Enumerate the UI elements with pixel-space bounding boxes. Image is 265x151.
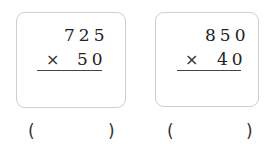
multiplier-2: 40 [217, 51, 247, 68]
answer-blank-1[interactable] [38, 122, 106, 142]
multiplicand-1: 725 [64, 27, 108, 44]
times-sign-2: × [185, 52, 198, 68]
multiplier-1: 50 [77, 51, 107, 68]
close-paren-1: ) [108, 123, 115, 140]
sum-line-2 [177, 70, 241, 71]
answer-blank-2[interactable] [178, 122, 244, 142]
sum-line-1 [37, 70, 102, 71]
open-paren-1: ( [28, 123, 35, 140]
multiplicand-2: 850 [205, 27, 249, 44]
times-sign-1: × [46, 52, 59, 68]
close-paren-2: ) [246, 123, 253, 140]
open-paren-2: ( [167, 123, 174, 140]
